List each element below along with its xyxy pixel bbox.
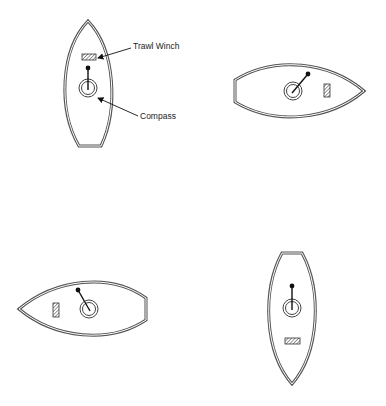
- boat-1: [65, 21, 138, 146]
- needle-tip: [306, 72, 311, 77]
- figure-caption: [0, 398, 386, 406]
- trawl-winch: [324, 84, 330, 97]
- needle-tip: [290, 284, 295, 289]
- boat-2: [235, 65, 364, 117]
- boat-4: [269, 253, 316, 384]
- trawl-winch: [82, 54, 96, 60]
- boat-3: [19, 282, 146, 335]
- trawl-winch: [285, 338, 300, 344]
- compass-label: Compass: [140, 111, 176, 121]
- hull-outline: [269, 253, 316, 384]
- trawl-winch-label: Trawl Winch: [133, 41, 179, 51]
- needle-tip: [86, 66, 91, 71]
- boat-compass-diagram: [0, 0, 386, 406]
- trawl-winch: [53, 303, 59, 317]
- needle-tip: [76, 288, 81, 293]
